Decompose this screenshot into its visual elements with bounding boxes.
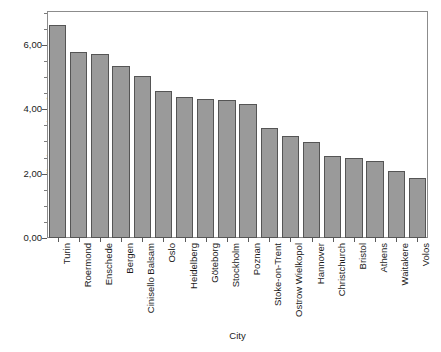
x-tick-label-slot: Poznan: [248, 243, 249, 323]
x-tick-label: Roermond: [83, 243, 93, 287]
x-tick-label: Athens: [379, 243, 389, 273]
x-tick: [290, 238, 291, 242]
x-tick-label-slot: Enschede: [100, 243, 101, 323]
y-tick-label: 6,00: [8, 40, 42, 50]
y-axis-tick-labels: 0,002,004,006,00: [8, 0, 42, 352]
x-tick-label: Waitakere: [400, 243, 410, 285]
bar: [49, 25, 66, 238]
x-tick-label-slot: Heidelberg: [185, 243, 186, 323]
x-tick: [333, 238, 334, 242]
x-tick: [79, 238, 80, 242]
bar: [282, 136, 299, 238]
x-tick-label-slot: Christchurch: [333, 243, 334, 323]
x-tick-label-slot: Volos: [417, 243, 418, 323]
x-tick-label-slot: Hannover: [312, 243, 313, 323]
bar: [324, 156, 341, 238]
y-tick-label: 2,00: [8, 169, 42, 179]
x-tick: [100, 238, 101, 242]
x-tick-label: Stockholm: [231, 243, 241, 287]
bar: [112, 66, 129, 238]
bar: [218, 100, 235, 238]
x-tick-label: Enschede: [104, 243, 114, 285]
x-tick: [354, 238, 355, 242]
bar-chart: Effective number of parties 0,002,004,00…: [0, 0, 441, 352]
x-tick: [312, 238, 313, 242]
x-tick: [396, 238, 397, 242]
bar: [134, 76, 151, 238]
x-tick-label-slot: Cinisello Balsam: [142, 243, 143, 323]
x-tick-label: Christchurch: [337, 243, 347, 296]
x-tick: [417, 238, 418, 242]
x-tick-label-slot: Ostrow Wielkopol: [290, 243, 291, 323]
bar: [366, 161, 383, 238]
x-axis-tick-labels: TurinRoermondEnschedeBergenCinisello Bal…: [47, 243, 428, 323]
bar: [239, 104, 256, 238]
bar: [345, 158, 362, 238]
bar: [70, 52, 87, 238]
x-tick: [227, 238, 228, 242]
x-tick-label: Heidelberg: [189, 243, 199, 289]
bar: [91, 54, 108, 238]
x-tick-label: Poznan: [252, 243, 262, 275]
x-tick: [121, 238, 122, 242]
x-tick-label-slot: Turin: [58, 243, 59, 323]
bar: [155, 91, 172, 238]
x-tick: [269, 238, 270, 242]
x-tick-label: Bergen: [125, 243, 135, 274]
x-tick-label: Turin: [62, 243, 72, 264]
bar: [388, 171, 405, 238]
x-tick-label-slot: Stoke-on-Trent: [269, 243, 270, 323]
x-tick-label-slot: Göteborg: [206, 243, 207, 323]
x-tick-label: Bristol: [358, 243, 368, 269]
x-tick-label: Cinisello Balsam: [146, 243, 156, 313]
x-tick: [375, 238, 376, 242]
bar: [176, 97, 193, 238]
x-tick-label: Hannover: [316, 243, 326, 284]
x-tick-label-slot: Oslo: [163, 243, 164, 323]
bar: [261, 128, 278, 238]
bar: [303, 142, 320, 238]
x-tick-label: Göteborg: [210, 243, 220, 283]
x-tick: [185, 238, 186, 242]
y-tick-label: 0,00: [8, 233, 42, 243]
x-axis-title: City: [47, 330, 428, 341]
x-tick-label: Oslo: [167, 243, 177, 263]
x-tick-label-slot: Athens: [375, 243, 376, 323]
x-tick-label: Ostrow Wielkopol: [294, 243, 304, 317]
x-tick-label-slot: Roermond: [79, 243, 80, 323]
x-tick-label-slot: Stockholm: [227, 243, 228, 323]
x-tick: [163, 238, 164, 242]
bar: [409, 178, 426, 238]
bars-group: [47, 11, 428, 238]
x-tick-label-slot: Bristol: [354, 243, 355, 323]
x-tick-label: Volos: [421, 243, 431, 266]
bar: [197, 99, 214, 238]
x-tick-label: Stoke-on-Trent: [273, 243, 283, 306]
x-tick: [58, 238, 59, 242]
x-tick-label-slot: Waitakere: [396, 243, 397, 323]
x-tick: [206, 238, 207, 242]
y-tick-label: 4,00: [8, 104, 42, 114]
x-tick: [142, 238, 143, 242]
x-tick: [248, 238, 249, 242]
x-tick-label-slot: Bergen: [121, 243, 122, 323]
